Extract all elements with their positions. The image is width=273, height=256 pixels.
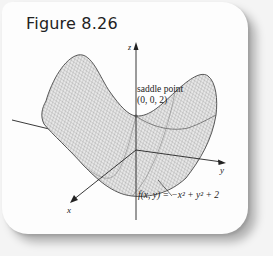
saddle-point-label: saddle point — [137, 84, 184, 94]
saddle-surface-plot: z y x saddle point (0, 0, 2) f(x, y) = −… — [0, 0, 273, 256]
saddle-surface — [42, 55, 217, 197]
z-axis-arrow — [134, 42, 139, 50]
saddle-point-marker — [134, 114, 137, 117]
z-axis-label: z — [127, 43, 132, 52]
x-axis-arrow — [70, 195, 78, 203]
saddle-point-coords: (0, 0, 2) — [137, 95, 167, 106]
x-axis-label: x — [66, 205, 71, 215]
function-label: f(x, y) = −x² + y² + 2 — [138, 190, 219, 201]
y-axis-label: y — [219, 165, 224, 175]
